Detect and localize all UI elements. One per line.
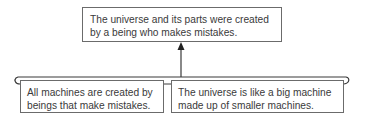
conclusion-box: The universe and its parts were created … [82,7,282,42]
premise-2-line-2: made up of smaller machines. [178,99,343,112]
conclusion-line-1: The universe and its parts were created [90,13,281,26]
premise-box-1: All machines are created by beings that … [20,80,164,113]
conclusion-line-2: by a being who makes mistakes. [90,26,281,39]
premise-box-2: The universe is like a big machine made … [171,80,344,113]
arrow-head-icon [178,42,185,50]
premise-2-line-1: The universe is like a big machine [178,86,343,99]
premise-1-line-1: All machines are created by [27,86,163,99]
premise-1-line-2: beings that make mistakes. [27,99,163,112]
